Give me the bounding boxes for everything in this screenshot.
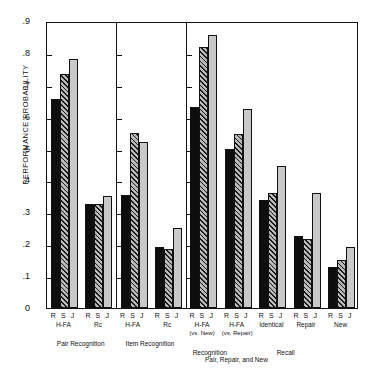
bar [173, 228, 182, 308]
x-tick-condition-label: H-FA [48, 320, 78, 329]
chart-panel [116, 23, 185, 308]
bar [208, 35, 217, 308]
bar [155, 247, 164, 308]
bar-groups [187, 23, 359, 308]
x-tick-series-labels: R S J [187, 311, 217, 320]
x-tick-series-labels: R S J [152, 311, 182, 320]
y-tick-label: .2 [12, 240, 30, 249]
x-tick-group: R S JH-FA(vs. Repair) [222, 311, 252, 337]
bar-group [51, 23, 78, 308]
x-tick-condition-sublabel: (vs. Repair) [222, 329, 252, 337]
bar [259, 200, 268, 308]
x-tick-group: R S JRc [152, 311, 182, 329]
x-axis-panel: R S JH-FAR S JRcItem Recognition [115, 311, 184, 369]
x-tick-series-labels: R S J [48, 311, 78, 320]
x-tick-condition-label: Rc [152, 320, 182, 329]
y-tick-label: .8 [12, 49, 30, 58]
x-tick-condition-label: H-FA [222, 320, 252, 329]
bar-group [259, 23, 286, 308]
y-axis-tick-labels: 0.1.2.3.4.5.6.7.8.9 [10, 0, 30, 369]
bar [190, 107, 199, 308]
bar [328, 267, 337, 308]
x-tick-condition-label: Repair [291, 320, 321, 329]
bar [103, 196, 112, 308]
x-tick-series-labels: R S J [222, 311, 252, 320]
bar [164, 249, 173, 308]
x-axis-area: R S JH-FAR S JRcPair RecognitionR S JH-F… [46, 311, 358, 369]
chart-panel [47, 23, 116, 308]
bar [69, 59, 78, 308]
x-tick-group: R S JNew [326, 311, 356, 337]
chart-container: PERFORMANCE PROBABILITY 0.1.2.3.4.5.6.7.… [0, 0, 370, 369]
x-tick-condition-label: Rc [83, 320, 113, 329]
bar [277, 166, 286, 308]
x-tick-condition-label: New [326, 320, 356, 329]
bar-group [121, 23, 148, 308]
bar [243, 109, 252, 308]
bar-group [155, 23, 182, 308]
x-tick-group: R S JRepair [291, 311, 321, 337]
bar [85, 204, 94, 308]
x-tick-condition-label: Identical [256, 320, 286, 329]
panel-title: Pair Recognition [46, 340, 115, 347]
chart-panel [186, 23, 359, 308]
y-tick-label: .7 [12, 81, 30, 90]
bar [51, 99, 60, 308]
x-tick-condition-sublabel: (vs. New) [187, 329, 217, 337]
bar [199, 47, 208, 308]
y-tick-label: .6 [12, 113, 30, 122]
y-tick-label: 0 [12, 304, 30, 313]
panel-title: Recognition [193, 349, 227, 356]
bar [294, 236, 303, 308]
x-tick-series-labels: R S J [118, 311, 148, 320]
bar-groups [47, 23, 116, 308]
bar [346, 247, 355, 308]
bar [337, 260, 346, 308]
bar-groups [117, 23, 185, 308]
panel-title: Item Recognition [115, 340, 184, 347]
bar [60, 74, 69, 308]
plot-area [46, 22, 358, 309]
bar [130, 133, 139, 308]
y-tick-label: .4 [12, 176, 30, 185]
bar [303, 239, 312, 308]
x-tick-group: R S JH-FA [118, 311, 148, 329]
panel-title: Recall [277, 349, 295, 356]
bar-group [225, 23, 252, 308]
y-tick-label: .3 [12, 208, 30, 217]
bar-group [190, 23, 217, 308]
x-tick-series-labels: R S J [291, 311, 321, 320]
y-tick-label: .1 [12, 272, 30, 281]
bar [312, 193, 321, 308]
bar [234, 134, 243, 308]
bar-group [328, 23, 355, 308]
bar [225, 149, 234, 308]
x-tick-condition-label: H-FA [187, 320, 217, 329]
x-tick-series-labels: R S J [256, 311, 286, 320]
x-tick-condition-label: H-FA [118, 320, 148, 329]
x-axis-panel: R S JH-FAR S JRcPair Recognition [46, 311, 115, 369]
x-axis-label: Pair, Repair, and New [205, 356, 268, 363]
bar-group [294, 23, 321, 308]
x-tick-series-labels: R S J [326, 311, 356, 320]
x-tick-group: R S JH-FA [48, 311, 78, 329]
y-tick-label: .5 [12, 145, 30, 154]
bar [94, 204, 103, 308]
bar [139, 142, 148, 308]
bar [121, 195, 130, 308]
x-tick-group: R S JH-FA(vs. New) [187, 311, 217, 337]
x-tick-series-labels: R S J [83, 311, 113, 320]
bar [268, 193, 277, 308]
x-tick-group: R S JIdentical [256, 311, 286, 337]
y-tick-label: .9 [12, 17, 30, 26]
bar-group [85, 23, 112, 308]
x-tick-group: R S JRc [83, 311, 113, 329]
